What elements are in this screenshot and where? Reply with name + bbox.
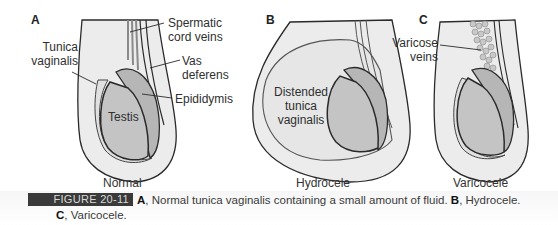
figure-tag: FIGURE 20-11 (28, 193, 133, 206)
label-line: deferens (182, 68, 229, 82)
label-epididymis: Epididymis (175, 92, 233, 106)
label-line: Varicose (384, 36, 438, 50)
label-distended-tunica-vaginalis: Distended tunica vaginalis (266, 85, 336, 127)
panel-a-drawing (78, 20, 176, 182)
panel-c-drawing (434, 20, 528, 182)
caption-line-1: A, Normal tunica vaginalis containing a … (137, 193, 521, 207)
panel-c-letter: C (419, 13, 428, 27)
label-line: Spermatic (168, 16, 223, 30)
label-line: tunica (266, 99, 336, 113)
caption-c-text: , Varicocele. (64, 209, 126, 221)
panel-a-letter: A (31, 13, 40, 27)
label-line: vaginalis (28, 54, 78, 68)
label-tunica-vaginalis: Tunica vaginalis (38, 40, 78, 68)
caption-a-text: , Normal tunica vaginalis containing a s… (145, 194, 451, 206)
panel-b-letter: B (266, 13, 275, 27)
label-line: Distended (266, 85, 336, 99)
label-testis: Testis (108, 110, 139, 124)
label-line: cord veins (168, 30, 223, 44)
label-vas-deferens: Vas deferens (182, 54, 229, 82)
panel-a-title: Normal (103, 176, 142, 190)
caption-line-2: C, Varicocele. (56, 208, 127, 222)
caption-b-text: , Hydrocele. (459, 194, 520, 206)
caption-b-letter: B (451, 194, 459, 206)
label-line: Tunica (38, 40, 78, 54)
panel-b-title: Hydrocele (296, 176, 350, 190)
label-varicose-veins: Varicose veins (384, 36, 438, 64)
label-line: Vas (182, 54, 229, 68)
panel-c-title: Varicocele (453, 176, 508, 190)
label-line: veins (384, 50, 438, 64)
label-line: vaginalis (266, 113, 336, 127)
label-spermatic-cord-veins: Spermatic cord veins (168, 16, 223, 44)
